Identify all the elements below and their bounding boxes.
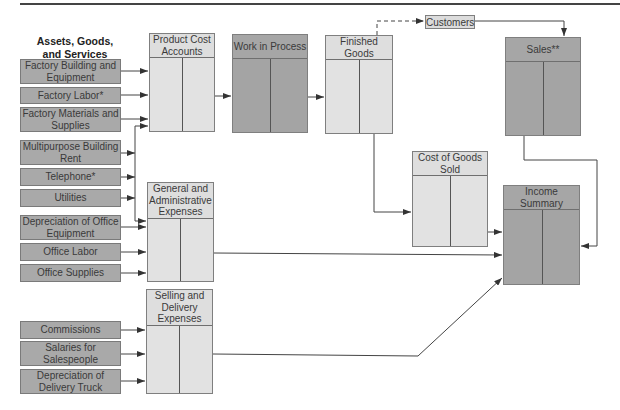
flow-arrows — [0, 0, 615, 410]
